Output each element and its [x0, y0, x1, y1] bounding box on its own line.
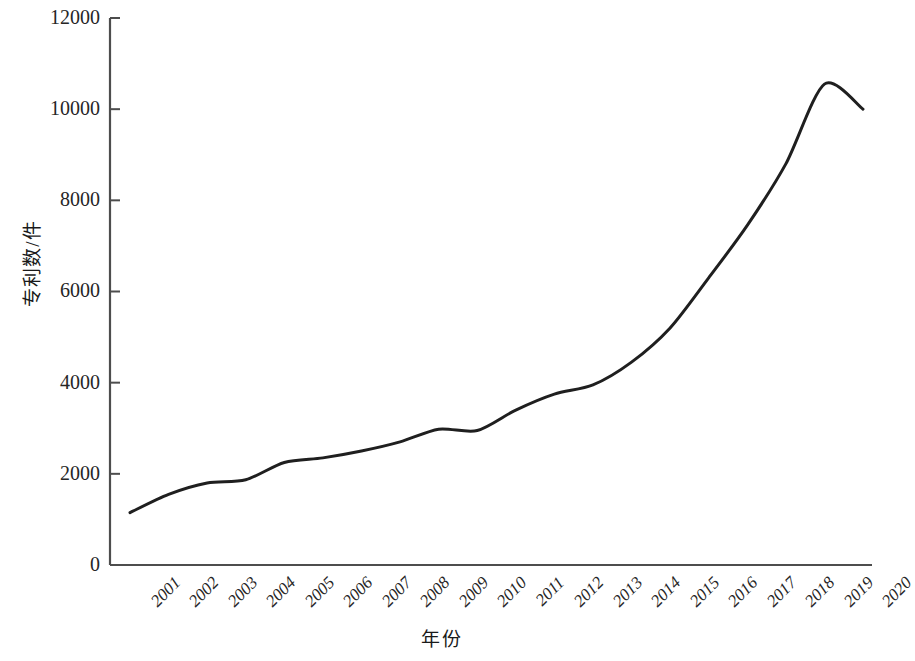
data-series-line — [130, 83, 863, 513]
y-tick-marks — [110, 18, 120, 565]
